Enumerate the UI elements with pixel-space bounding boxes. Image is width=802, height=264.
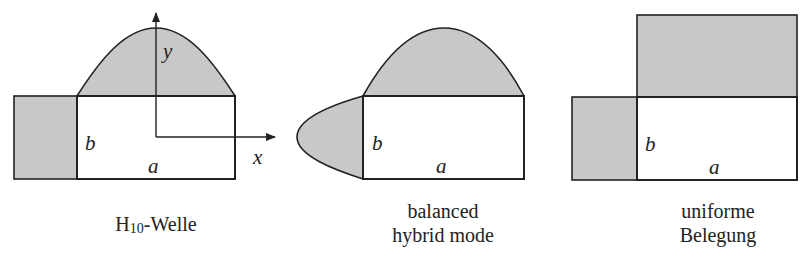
width-label-a: a	[436, 154, 447, 178]
y-axis-label: y	[161, 39, 173, 63]
caption-line-2: hybrid mode	[373, 223, 513, 247]
caption-h10-subscript: 10	[130, 221, 144, 236]
panel-h10-wave: y x b a	[14, 13, 275, 179]
top-distribution-cosine	[363, 28, 524, 96]
panel-balanced-hybrid-mode: b a	[297, 28, 524, 179]
caption-h10-suffix: -Welle	[144, 213, 197, 235]
caption-balanced-hybrid-mode: balanced hybrid mode	[373, 199, 513, 247]
side-distribution-cosine	[297, 96, 363, 179]
height-label-b: b	[372, 131, 383, 155]
caption-line-2: Belegung	[656, 223, 780, 247]
caption-h10-main: H	[115, 213, 129, 235]
caption-line-1: balanced	[373, 199, 513, 223]
caption-h10-wave: H10-Welle	[96, 212, 216, 239]
width-label-a: a	[709, 155, 720, 179]
side-distribution-uniform	[14, 96, 77, 179]
caption-uniform-distribution: uniforme Belegung	[656, 199, 780, 247]
height-label-b: b	[645, 132, 656, 156]
cut-off-heading-text	[0, 0, 802, 7]
width-label-a: a	[148, 154, 159, 178]
caption-line-1: uniforme	[656, 199, 780, 223]
x-axis-label: x	[252, 145, 263, 169]
top-distribution-uniform	[637, 15, 797, 97]
height-label-b: b	[85, 131, 96, 155]
panel-uniform-distribution: b a	[572, 15, 797, 180]
side-distribution-uniform	[572, 97, 637, 180]
aperture-distribution-figure: y x b a b a b a H10-Wel	[0, 0, 802, 264]
